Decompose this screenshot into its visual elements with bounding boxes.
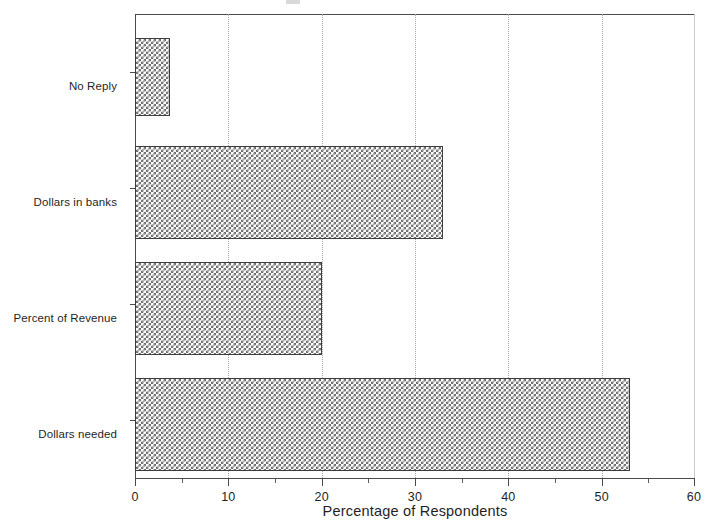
bar-chart-figure: No Reply Dollars in banks Percent of Rev… [0,0,717,532]
x-tick-major-30 [415,479,416,486]
x-tick-minor-45 [555,479,556,483]
x-tick-label-50: 50 [595,490,609,504]
y-axis-category-labels: No Reply Dollars in banks Percent of Rev… [0,14,127,478]
y-category-label-percent-of-revenue: Percent of Revenue [14,312,117,324]
x-tick-label-20: 20 [315,490,329,504]
bar-row-dollars-needed [135,362,695,478]
bar-dollars-needed[interactable] [135,378,630,471]
x-tick-minor-25 [368,479,369,483]
cropped-title-remnant [286,0,300,4]
x-tick-major-40 [508,479,509,486]
x-tick-major-60 [694,479,695,486]
x-tick-major-10 [228,479,229,486]
x-tick-label-60: 60 [687,490,701,504]
bar-percent-of-revenue[interactable] [135,262,322,355]
x-tick-label-10: 10 [221,490,235,504]
x-tick-label-30: 30 [408,490,422,504]
x-axis-title: Percentage of Respondents [135,503,695,519]
bar-no-reply[interactable] [135,38,170,116]
plot-area: 0 10 20 30 40 50 60 [135,14,695,478]
y-category-label-dollars-in-banks: Dollars in banks [34,196,117,208]
x-tick-major-20 [322,479,323,486]
x-tick-minor-15 [275,479,276,483]
x-tick-major-0 [135,479,136,486]
bar-dollars-in-banks[interactable] [135,146,443,239]
y-category-label-no-reply: No Reply [69,80,117,92]
x-tick-minor-35 [462,479,463,483]
bar-row-no-reply [135,14,695,130]
bar-row-percent-of-revenue [135,246,695,362]
x-tick-label-40: 40 [501,490,515,504]
x-tick-label-0: 0 [131,490,138,504]
x-tick-minor-5 [182,479,183,483]
x-tick-minor-55 [648,479,649,483]
x-tick-major-50 [602,479,603,486]
y-category-label-dollars-needed: Dollars needed [38,428,117,440]
bar-row-dollars-in-banks [135,130,695,246]
